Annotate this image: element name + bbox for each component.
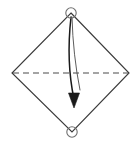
figure-container — [0, 0, 138, 145]
origami-fold-diagram — [0, 0, 138, 145]
